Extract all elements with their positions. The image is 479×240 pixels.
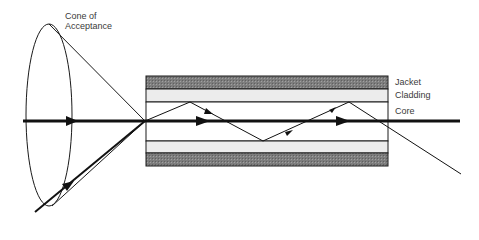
jacket-label: Jacket xyxy=(395,77,421,88)
cone-top-edge xyxy=(49,24,145,121)
cladding-top xyxy=(146,89,388,102)
cladding-bottom xyxy=(146,141,388,153)
cone-ellipse xyxy=(26,24,72,206)
oblique-ray xyxy=(35,121,145,212)
core-label: Core xyxy=(395,106,415,117)
jacket-top xyxy=(146,76,388,89)
cone-label-line2: Acceptance xyxy=(65,21,112,32)
cladding-label: Cladding xyxy=(395,90,431,101)
jacket-bottom xyxy=(146,153,388,166)
arrow-icon xyxy=(62,181,74,191)
acceptance-cone xyxy=(26,24,145,206)
